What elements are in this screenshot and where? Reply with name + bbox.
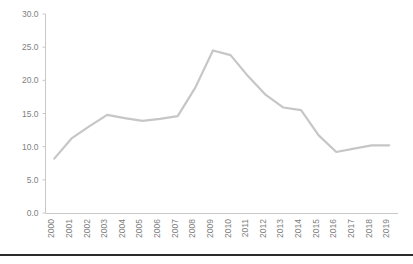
x-axis-tick-label: 2017 bbox=[346, 219, 356, 238]
x-axis-tick-label: 2014 bbox=[293, 219, 303, 238]
y-axis-tick-label: 15.0 bbox=[22, 109, 39, 119]
x-axis-tick-label: 2008 bbox=[187, 219, 197, 238]
x-axis-tick-labels: 2000200120022003200420052006200720082009… bbox=[46, 219, 391, 238]
chart-canvas: 0.05.010.015.020.025.030.0 2000200120022… bbox=[0, 0, 413, 252]
x-axis-tick-label: 2015 bbox=[311, 219, 321, 238]
x-axis-tick-label: 2019 bbox=[381, 219, 391, 238]
x-axis-tick-label: 2000 bbox=[46, 219, 56, 238]
x-axis-tick-label: 2010 bbox=[223, 219, 233, 238]
y-axis-tick-label: 25.0 bbox=[22, 42, 39, 52]
line-chart-figure: 0.05.010.015.020.025.030.0 2000200120022… bbox=[0, 0, 413, 252]
x-axis-tick-label: 2002 bbox=[82, 219, 92, 238]
y-axis-tick-label: 10.0 bbox=[22, 142, 39, 152]
x-axis-tick-label: 2003 bbox=[99, 219, 109, 238]
x-axis-tick-label: 2016 bbox=[328, 219, 338, 238]
y-axis-tick-label: 0.0 bbox=[27, 208, 39, 218]
x-axis-tick-label: 2009 bbox=[205, 219, 215, 238]
x-axis-tick-label: 2004 bbox=[117, 219, 127, 238]
x-axis-tick-label: 2018 bbox=[364, 219, 374, 238]
y-axis-tick-label: 5.0 bbox=[27, 175, 39, 185]
x-axis-tick-label: 2006 bbox=[152, 219, 162, 238]
y-axis-tick-label: 30.0 bbox=[22, 9, 39, 19]
x-axis-tick-label: 2012 bbox=[258, 219, 268, 238]
bottom-divider-rule bbox=[0, 254, 413, 256]
x-axis-tick-label: 2001 bbox=[64, 219, 74, 238]
x-axis-tick-label: 2013 bbox=[275, 219, 285, 238]
data-series-line bbox=[54, 50, 389, 158]
y-axis-tick-labels: 0.05.010.015.020.025.030.0 bbox=[22, 9, 39, 218]
x-axis-tick-label: 2011 bbox=[240, 219, 250, 238]
x-axis-tick-label: 2007 bbox=[170, 219, 180, 238]
x-axis-tick-label: 2005 bbox=[134, 219, 144, 238]
y-axis-tick-label: 20.0 bbox=[22, 75, 39, 85]
